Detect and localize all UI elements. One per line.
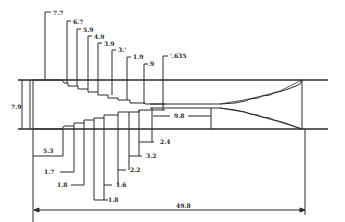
dim-label-0-9: .9 <box>148 60 154 67</box>
dim-label-5-9: 5.9 <box>83 26 93 33</box>
left-step-profile-top <box>33 80 165 104</box>
left-step-profile-bottom <box>33 110 165 129</box>
height-dimension: 7.9 <box>11 80 22 129</box>
overall-length-dimension: 49.8 <box>34 202 305 212</box>
dim-label-7-7: 7.7 <box>53 9 63 16</box>
dim-label-3-2: 3.2 <box>146 152 156 159</box>
bottom-dimensions: 5.3 1.7 1.8 1.8 1.6 2.2 3.2 2.4 <box>33 138 170 203</box>
right-flare-top <box>220 80 302 104</box>
right-flare-bottom <box>220 108 302 129</box>
dim-label-1-8a: 1.8 <box>57 181 67 188</box>
dim-label-6-7: 6.7 <box>73 18 83 25</box>
dim-label-49-8: 49.8 <box>176 202 191 209</box>
top-dimension-labels: 7.7 6.7 5.9 4.9 3.9 3.' 1.9 .9 '.635 <box>53 9 186 67</box>
dim-label-1-9: 1.9 <box>133 53 143 60</box>
dim-label-height-7-9: 7.9 <box>11 103 21 110</box>
dim-label-3-x: 3.' <box>118 46 126 53</box>
dim-label-1-6: 1.6 <box>116 181 126 188</box>
dim-label-5-3: 5.3 <box>43 147 53 154</box>
horn-dimension-drawing: 7.7 6.7 5.9 4.9 3.9 3.' 1.9 .9 '.635 7.9… <box>0 0 345 222</box>
bottom-leaders <box>63 108 152 200</box>
dim-label-9-8: 9.8 <box>174 112 184 119</box>
dim-label-3-9: 3.9 <box>104 40 114 47</box>
dim-label-1-7: 1.7 <box>44 168 54 175</box>
envelope-lines <box>18 80 328 222</box>
throat-length-dimension: 9.8 <box>153 112 211 119</box>
dim-label-1-8b: 1.8 <box>108 196 118 203</box>
dim-label-0-635: '.635 <box>170 52 186 59</box>
dim-label-4-9: 4.9 <box>94 33 104 40</box>
dim-label-2-4: 2.4 <box>160 138 170 145</box>
dim-label-2-2: 2.2 <box>130 166 140 173</box>
